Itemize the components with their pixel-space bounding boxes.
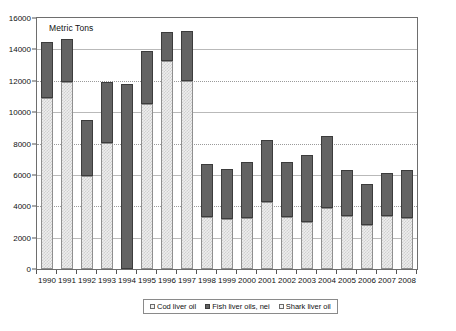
bar-segment-fish-liver-oils-nei[interactable] [101,82,113,143]
y-axis-tick-label: 4000 [13,202,31,211]
bar-segment-fish-liver-oils-nei[interactable] [121,84,133,269]
x-axis-tick-label: 2003 [298,276,316,285]
bar-segment-cod-liver-oil[interactable] [381,216,393,269]
x-axis-tick-mark [356,270,357,274]
bar-segment-fish-liver-oils-nei[interactable] [221,169,233,218]
bar-column[interactable] [121,18,133,269]
bar-segment-cod-liver-oil[interactable] [341,216,353,269]
x-axis-tick-mark [236,270,237,274]
y-axis-tick-label: 6000 [13,170,31,179]
bar-column[interactable] [361,18,373,269]
bar-segment-cod-liver-oil[interactable] [261,202,273,269]
bar-column[interactable] [101,18,113,269]
x-axis-tick-label: 1997 [178,276,196,285]
y-axis-tick-label: 0 [27,265,31,274]
bar-column[interactable] [201,18,213,269]
bar-segment-cod-liver-oil[interactable] [161,61,173,269]
x-axis-tick-label: 2004 [318,276,336,285]
cut-off-caption [8,324,308,329]
bar-segment-fish-liver-oils-nei[interactable] [281,162,293,217]
bar-segment-fish-liver-oils-nei[interactable] [381,173,393,216]
bar-segment-cod-liver-oil[interactable] [181,81,193,269]
bar-column[interactable] [181,18,193,269]
bar-segment-fish-liver-oils-nei[interactable] [401,170,413,218]
x-axis-tick-mark [256,270,257,274]
bar-segment-fish-liver-oils-nei[interactable] [201,164,213,217]
legend-swatch-cod-icon [150,304,155,309]
x-axis-tick-mark [276,270,277,274]
x-axis-tick-mark [196,270,197,274]
x-axis-tick-mark [176,270,177,274]
legend-item[interactable]: Cod liver oil [150,302,196,311]
bar-column[interactable] [141,18,153,269]
bar-segment-cod-liver-oil[interactable] [81,176,93,269]
bar-segment-fish-liver-oils-nei[interactable] [241,162,253,218]
bar-column[interactable] [221,18,233,269]
x-axis-tick-label: 2008 [398,276,416,285]
bar-segment-fish-liver-oils-nei[interactable] [261,140,273,203]
y-axis-tick-label: 12000 [9,76,31,85]
legend-label: Cod liver oil [157,302,196,311]
bar-segment-fish-liver-oils-nei[interactable] [161,32,173,61]
bar-segment-fish-liver-oils-nei[interactable] [41,42,53,98]
x-axis: 1990199119921993199419951996199719981999… [36,270,418,292]
bar-segment-fish-liver-oils-nei[interactable] [61,39,73,82]
bar-column[interactable] [61,18,73,269]
bar-column[interactable] [281,18,293,269]
bar-column[interactable] [341,18,353,269]
x-axis-tick-mark [136,270,137,274]
bar-segment-cod-liver-oil[interactable] [321,208,333,269]
x-axis-tick-label: 1995 [138,276,156,285]
y-axis-tick-label: 10000 [9,108,31,117]
bar-column[interactable] [381,18,393,269]
x-axis-tick-mark [56,270,57,274]
x-axis-tick-mark [416,270,417,274]
bar-column[interactable] [41,18,53,269]
bar-column[interactable] [241,18,253,269]
x-axis-tick-label: 1992 [78,276,96,285]
x-axis-tick-label: 1993 [98,276,116,285]
bar-segment-cod-liver-oil[interactable] [41,98,53,269]
x-axis-tick-label: 1994 [118,276,136,285]
bar-segment-cod-liver-oil[interactable] [61,82,73,269]
x-axis-tick-mark [296,270,297,274]
bar-segment-cod-liver-oil[interactable] [401,218,413,269]
bar-segment-cod-liver-oil[interactable] [201,217,213,269]
x-axis-tick-mark [376,270,377,274]
bar-segment-fish-liver-oils-nei[interactable] [321,136,333,207]
bar-segment-cod-liver-oil[interactable] [141,104,153,270]
bar-column[interactable] [401,18,413,269]
x-axis-tick-label: 2007 [378,276,396,285]
legend-item[interactable]: Shark liver oil [279,302,331,311]
bar-segment-cod-liver-oil[interactable] [281,217,293,269]
x-axis-tick-mark [156,270,157,274]
bar-segment-cod-liver-oil[interactable] [361,225,373,269]
legend-item[interactable]: Fish liver oils, nei [205,302,270,311]
x-axis-tick-label: 2005 [338,276,356,285]
x-axis-tick-mark [336,270,337,274]
chart-legend: Cod liver oilFish liver oils, neiShark l… [143,299,338,314]
bar-segment-fish-liver-oils-nei[interactable] [361,184,373,226]
bar-segment-fish-liver-oils-nei[interactable] [301,155,313,222]
x-axis-tick-label: 1999 [218,276,236,285]
x-axis-tick-mark [36,270,37,274]
bars-layer [37,18,417,269]
bar-segment-cod-liver-oil[interactable] [241,218,253,269]
bar-column[interactable] [261,18,273,269]
x-axis-tick-label: 1990 [38,276,56,285]
bar-column[interactable] [161,18,173,269]
bar-segment-fish-liver-oils-nei[interactable] [81,120,93,176]
x-axis-tick-mark [96,270,97,274]
bar-segment-fish-liver-oils-nei[interactable] [341,170,353,215]
legend-swatch-shark-icon [279,304,284,309]
bar-column[interactable] [321,18,333,269]
x-axis-tick-label: 2000 [238,276,256,285]
bar-column[interactable] [81,18,93,269]
x-axis-tick-label: 1991 [58,276,76,285]
bar-segment-fish-liver-oils-nei[interactable] [141,51,153,104]
bar-column[interactable] [301,18,313,269]
bar-segment-cod-liver-oil[interactable] [221,219,233,269]
bar-segment-cod-liver-oil[interactable] [301,222,313,269]
bar-segment-fish-liver-oils-nei[interactable] [181,31,193,80]
bar-segment-cod-liver-oil[interactable] [101,143,113,269]
